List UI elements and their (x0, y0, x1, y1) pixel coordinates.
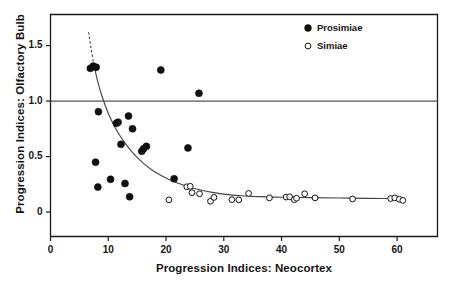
data-point-prosimiae-11 (125, 113, 132, 120)
data-point-simiae-14 (294, 195, 300, 201)
x-tick-label-40: 40 (262, 244, 302, 255)
data-point-simiae-16 (312, 195, 318, 201)
data-point-simiae-7 (229, 197, 235, 203)
data-point-simiae-8 (236, 197, 242, 203)
data-point-prosimiae-2 (93, 64, 100, 71)
plot-border (51, 15, 438, 237)
fit-curve-dashed-extension (89, 32, 94, 64)
data-point-prosimiae-17 (157, 67, 164, 74)
data-point-simiae-10 (267, 195, 273, 201)
legend-marker-group (305, 25, 312, 49)
legend-marker-prosimiae (305, 25, 312, 32)
data-point-prosimiae-8 (115, 119, 122, 126)
data-point-simiae-2 (187, 183, 193, 189)
y-tick-label-1.0: 1.0 (7, 95, 43, 106)
series-prosimiae-points (87, 63, 203, 201)
data-point-simiae-4 (197, 191, 203, 197)
data-point-simiae-21 (400, 198, 406, 204)
x-tick-label-0: 0 (31, 244, 71, 255)
series-simiae-points (166, 183, 406, 204)
axes-frame (51, 15, 438, 237)
fit-curve-solid (94, 64, 403, 198)
y-tick-label-0.5: 0.5 (7, 150, 43, 161)
x-axis-title: Progression Indices: Neocortex (50, 262, 438, 274)
data-point-prosimiae-18 (171, 175, 178, 182)
data-point-simiae-15 (302, 191, 308, 197)
legend-marker-simiae (305, 43, 311, 49)
x-tick-label-30: 30 (204, 244, 244, 255)
tick-mark-group (46, 46, 397, 241)
x-tick-label-60: 60 (377, 244, 417, 255)
data-point-prosimiae-9 (117, 141, 124, 148)
data-point-prosimiae-12 (126, 193, 133, 200)
y-tick-label-1.5: 1.5 (7, 39, 43, 50)
data-point-simiae-0 (166, 197, 172, 203)
scatter-plot-figure: Progression Indices: Olfactory Bulb Prog… (0, 0, 454, 285)
y-tick-label-0: 0 (7, 206, 43, 217)
legend-label-simiae: Simiae (317, 40, 348, 51)
data-point-prosimiae-4 (92, 159, 99, 166)
data-point-prosimiae-16 (143, 143, 150, 150)
x-tick-label-20: 20 (146, 244, 186, 255)
x-tick-label-10: 10 (88, 244, 128, 255)
data-point-simiae-17 (350, 196, 356, 202)
data-point-prosimiae-10 (122, 180, 129, 187)
fit-curve (89, 32, 403, 199)
data-point-prosimiae-5 (94, 184, 101, 191)
y-axis-title: Progression Indices: Olfactory Bulb (14, 0, 26, 229)
x-tick-label-50: 50 (319, 244, 359, 255)
legend-label-prosimiae: Prosimiae (317, 22, 362, 33)
data-point-prosimiae-6 (107, 176, 114, 183)
data-point-prosimiae-3 (95, 108, 102, 115)
data-point-simiae-3 (189, 190, 195, 196)
data-point-simiae-9 (246, 191, 252, 197)
data-point-prosimiae-19 (184, 144, 191, 151)
data-point-prosimiae-13 (129, 125, 136, 132)
data-point-simiae-6 (211, 195, 217, 201)
data-point-prosimiae-20 (195, 90, 202, 97)
plot-canvas (0, 0, 454, 285)
